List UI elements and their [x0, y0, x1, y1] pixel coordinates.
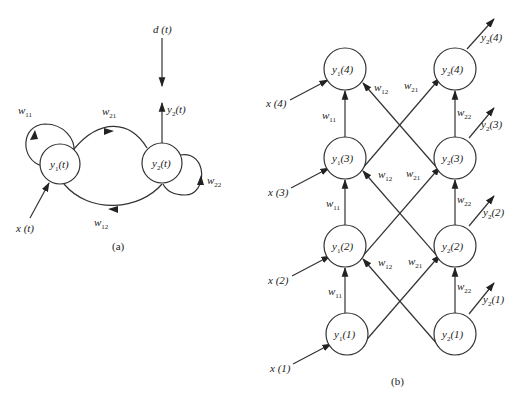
- arrowhead-icon: [108, 206, 118, 213]
- edge-w12: [64, 184, 162, 205]
- arrowhead-icon: [30, 130, 38, 140]
- input-label-3: x (3): [267, 186, 289, 199]
- output-label-3: y2(3): [480, 118, 503, 133]
- input-label-1: x (1): [269, 362, 291, 375]
- output-label: y2(t): [166, 103, 186, 118]
- input-arrow-3: [291, 168, 329, 188]
- edge-w21: [74, 126, 147, 149]
- weight-w11-1-2: w11: [328, 285, 343, 300]
- panel-b: y1(4) y2(4) y1(3) y2(3) y1(2) y2(2) y1(1…: [265, 19, 505, 388]
- desired-label: d (t): [153, 23, 172, 36]
- weight-w11: w11: [18, 104, 33, 119]
- weight-w22: w22: [207, 174, 222, 189]
- input-arrow-2: [292, 256, 330, 276]
- edge-w12-3-4: [363, 83, 438, 169]
- weight-w12: w12: [94, 216, 109, 231]
- weight-w21-3-4: w21: [404, 79, 419, 94]
- output-arrow-2: [469, 196, 494, 226]
- weight-w11-3-4: w11: [322, 109, 337, 124]
- output-arrow-1: [469, 283, 494, 314]
- weight-w12-1-2: w12: [378, 256, 393, 271]
- weight-w21-1-2: w21: [408, 255, 423, 270]
- weight-w12-3-4: w12: [374, 81, 389, 96]
- input-arrow-1: [293, 344, 331, 364]
- input-label: x (t): [15, 222, 34, 235]
- weight-w12-2-3: w12: [378, 168, 393, 183]
- weight-w22-3-4: w22: [457, 106, 472, 121]
- edge-w21-1-2: [362, 255, 440, 345]
- edge-w21-2-3: [362, 167, 440, 257]
- arrowhead-icon: [197, 175, 204, 185]
- caption-a: (a): [112, 240, 125, 253]
- arrowhead-icon: [104, 128, 114, 135]
- edge-w12-2-3: [363, 171, 438, 257]
- recurrent-network-diagram: d (t) y2(t) w11 w21 w12 w22 x (t) y1(t) …: [0, 0, 518, 403]
- output-label-2: y2(2): [482, 206, 505, 221]
- input-arrow-4: [290, 80, 328, 100]
- panel-a: d (t) y2(t) w11 w21 w12 w22 x (t) y1(t) …: [15, 23, 222, 253]
- output-label-1: y2(1): [482, 293, 505, 308]
- caption-b: (b): [391, 375, 404, 388]
- input-label-4: x (4): [265, 97, 287, 110]
- output-label-4: y2(4): [480, 31, 503, 46]
- input-label-2: x (2): [267, 274, 289, 287]
- weight-w11-2-3: w11: [326, 197, 341, 212]
- weight-w22-1-2: w22: [457, 280, 472, 295]
- weight-w21-2-3: w21: [406, 167, 421, 182]
- edge-w12-1-2: [363, 259, 438, 345]
- weight-w22-2-3: w22: [457, 193, 472, 208]
- weight-w21: w21: [102, 105, 117, 120]
- input-arrow: [30, 183, 49, 218]
